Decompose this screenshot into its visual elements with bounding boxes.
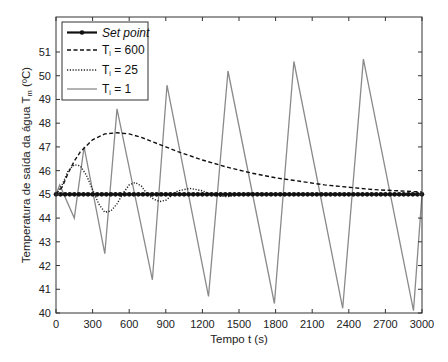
setpoint-marker xyxy=(292,192,297,197)
setpoint-marker xyxy=(374,192,379,197)
x-tick-label: 900 xyxy=(157,318,175,330)
legend-label: Set point xyxy=(102,26,150,40)
setpoint-marker xyxy=(122,192,127,197)
x-tick-label: 1800 xyxy=(263,318,287,330)
setpoint-marker xyxy=(218,192,223,197)
setpoint-marker xyxy=(95,192,100,197)
setpoint-marker xyxy=(278,192,283,197)
y-tick-label: 42 xyxy=(39,260,51,272)
setpoint-marker xyxy=(369,192,374,197)
setpoint-marker xyxy=(109,192,114,197)
setpoint-marker xyxy=(287,192,292,197)
setpoint-marker xyxy=(150,192,155,197)
x-tick-label: 600 xyxy=(120,318,138,330)
y-axis-title: Temperatura de saída da água Tm (ºC) xyxy=(20,67,34,263)
y-tick-label: 50 xyxy=(39,70,51,82)
setpoint-marker xyxy=(379,192,384,197)
y-tick-label: 43 xyxy=(39,236,51,248)
x-tick-label: 2700 xyxy=(373,318,397,330)
setpoint-marker xyxy=(173,192,178,197)
setpoint-marker xyxy=(63,192,68,197)
setpoint-marker xyxy=(196,192,201,197)
setpoint-marker xyxy=(72,192,77,197)
setpoint-marker xyxy=(310,192,315,197)
setpoint-marker xyxy=(260,192,265,197)
setpoint-marker xyxy=(301,192,306,197)
setpoint-marker xyxy=(86,192,91,197)
x-tick-label: 2400 xyxy=(337,318,361,330)
setpoint-marker xyxy=(356,192,361,197)
x-tick-label: 2100 xyxy=(300,318,324,330)
setpoint-marker xyxy=(159,192,164,197)
x-tick-label: 0 xyxy=(53,318,59,330)
y-tick-label: 40 xyxy=(39,307,51,319)
legend-label: Ti = 600 xyxy=(102,43,145,57)
legend-label: Ti = 25 xyxy=(102,63,138,77)
setpoint-marker xyxy=(131,192,136,197)
setpoint-marker xyxy=(269,192,274,197)
legend: Set pointTi = 600Ti = 25Ti = 1 xyxy=(62,22,150,100)
setpoint-marker xyxy=(347,192,352,197)
setpoint-marker xyxy=(223,192,228,197)
setpoint-marker xyxy=(164,192,169,197)
setpoint-marker xyxy=(392,192,397,197)
setpoint-marker xyxy=(237,192,242,197)
y-tick-label: 45 xyxy=(39,188,51,200)
setpoint-marker xyxy=(186,192,191,197)
setpoint-marker xyxy=(360,192,365,197)
x-tick-label: 300 xyxy=(83,318,101,330)
setpoint-marker xyxy=(241,192,246,197)
setpoint-marker xyxy=(324,192,329,197)
setpoint-marker xyxy=(411,192,416,197)
setpoint-marker xyxy=(104,192,109,197)
y-tick-label: 41 xyxy=(39,283,51,295)
setpoint-marker xyxy=(264,192,269,197)
setpoint-marker xyxy=(205,192,210,197)
setpoint-marker xyxy=(136,192,141,197)
setpoint-marker xyxy=(127,192,132,197)
setpoint-marker xyxy=(177,192,182,197)
setpoint-marker xyxy=(191,192,196,197)
setpoint-marker xyxy=(351,192,356,197)
setpoint-marker xyxy=(214,192,219,197)
x-tick-label: 1500 xyxy=(227,318,251,330)
setpoint-marker xyxy=(90,192,95,197)
setpoint-marker xyxy=(314,192,319,197)
setpoint-marker xyxy=(200,192,205,197)
setpoint-marker xyxy=(145,192,150,197)
y-tick-label: 48 xyxy=(39,117,51,129)
setpoint-marker xyxy=(296,192,301,197)
setpoint-marker xyxy=(305,192,310,197)
setpoint-marker xyxy=(228,192,233,197)
legend-label: Ti = 1 xyxy=(102,82,132,96)
y-tick-label: 44 xyxy=(39,212,51,224)
setpoint-marker xyxy=(388,192,393,197)
setpoint-marker xyxy=(365,192,370,197)
setpoint-marker xyxy=(337,192,342,197)
setpoint-marker xyxy=(168,192,173,197)
setpoint-marker xyxy=(113,192,118,197)
setpoint-marker xyxy=(99,192,104,197)
setpoint-marker xyxy=(255,192,260,197)
y-tick-label: 47 xyxy=(39,141,51,153)
setpoint-marker xyxy=(383,192,388,197)
setpoint-marker xyxy=(232,192,237,197)
y-tick-label: 46 xyxy=(39,165,51,177)
setpoint-marker xyxy=(246,192,251,197)
setpoint-marker xyxy=(182,192,187,197)
setpoint-marker xyxy=(328,192,333,197)
setpoint-marker xyxy=(319,192,324,197)
setpoint-marker xyxy=(333,192,338,197)
setpoint-marker xyxy=(273,192,278,197)
setpoint-marker xyxy=(77,192,82,197)
setpoint-marker xyxy=(401,192,406,197)
setpoint-marker xyxy=(118,192,123,197)
x-axis-title: Tempo t (s) xyxy=(210,333,268,345)
setpoint-marker xyxy=(342,192,347,197)
setpoint-marker xyxy=(81,192,86,197)
setpoint-marker xyxy=(141,192,146,197)
line-chart: 0300600900120015001800210024002700300040… xyxy=(0,0,448,362)
setpoint-marker xyxy=(406,192,411,197)
setpoint-marker xyxy=(154,192,159,197)
setpoint-marker xyxy=(250,192,255,197)
